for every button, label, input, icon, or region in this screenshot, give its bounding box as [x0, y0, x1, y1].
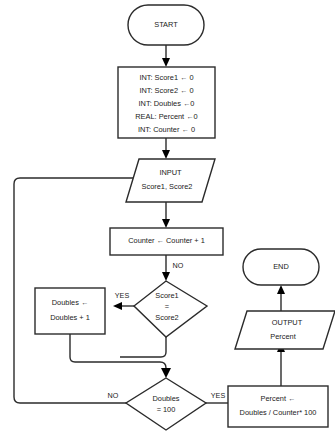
arrow-head-merge-to-check-hundred: [161, 368, 171, 378]
node-declare[interactable]: INT: Score1 ← 0 INT: Score2 ← 0 INT: Dou…: [118, 67, 215, 138]
node-input[interactable]: INPUT Score1, Score2: [126, 159, 215, 202]
doubles-shape: [35, 288, 105, 334]
node-percent[interactable]: Percent ← Doubles / Counter* 100: [228, 386, 328, 427]
percent-line-1: Percent ←: [261, 394, 296, 403]
percent-line-2: Doubles / Counter* 100: [240, 408, 317, 417]
connector-compare-no-to-merge: [120, 337, 166, 357]
doubles-line-1: Doubles ←: [52, 298, 89, 307]
percent-shape: [228, 386, 328, 427]
arrow-head-counter-to-compare: [162, 272, 170, 281]
compare-line-3: Score2: [155, 313, 178, 322]
output-line-1: OUTPUT: [272, 318, 303, 327]
branch-label-hundred-no: NO: [108, 391, 119, 400]
arrow-head-output-to-end: [277, 285, 285, 294]
input-shape: [126, 159, 215, 202]
end-label: END: [273, 262, 289, 271]
compare-line-2: =: [165, 302, 169, 311]
output-shape: [235, 311, 335, 349]
doubles-line-2: Doubles + 1: [50, 313, 90, 322]
node-check-hundred[interactable]: Doubles = 100: [126, 378, 206, 430]
input-line-2: Score1, Score2: [142, 182, 193, 191]
declare-line-3: INT: Doubles ←0: [139, 99, 195, 108]
node-doubles[interactable]: Doubles ← Doubles + 1: [35, 288, 105, 334]
arrow-head-input-to-counter: [162, 219, 170, 228]
input-line-1: INPUT: [159, 168, 182, 177]
branch-label-hundred-yes: YES: [211, 391, 226, 400]
arrow-head-declare-to-input: [162, 150, 170, 159]
node-compare[interactable]: Score1 = Score2: [134, 281, 207, 337]
connector-doubles-to-merge: [70, 334, 166, 372]
node-output[interactable]: OUTPUT Percent: [235, 311, 335, 349]
compare-shape: [134, 281, 207, 337]
branch-label-compare-yes: YES: [115, 291, 130, 300]
node-start[interactable]: START: [128, 5, 204, 45]
output-line-2: Percent: [270, 332, 295, 341]
compare-line-1: Score1: [155, 291, 178, 300]
declare-line-4: REAL: Percent ←0: [135, 112, 197, 121]
arrow-head-compare-yes-to-doubles: [113, 302, 122, 310]
branch-label-compare-no: NO: [173, 261, 184, 270]
node-end[interactable]: END: [243, 249, 319, 285]
start-label: START: [154, 20, 178, 29]
declare-line-5: INT: Counter ← 0: [138, 125, 195, 134]
counter-line-1: Counter ← Counter + 1: [128, 236, 205, 245]
flowchart-svg: START INT: Score1 ← 0 INT: Score2 ← 0 IN…: [0, 0, 335, 443]
node-counter[interactable]: Counter ← Counter + 1: [110, 228, 223, 255]
check-hundred-line-1: Doubles: [152, 394, 179, 403]
declare-line-2: INT: Score2 ← 0: [139, 86, 193, 95]
flowchart-canvas: START INT: Score1 ← 0 INT: Score2 ← 0 IN…: [0, 0, 335, 443]
declare-line-1: INT: Score1 ← 0: [139, 73, 193, 82]
check-hundred-line-2: = 100: [157, 405, 176, 414]
arrow-head-start-to-declare: [162, 58, 170, 67]
